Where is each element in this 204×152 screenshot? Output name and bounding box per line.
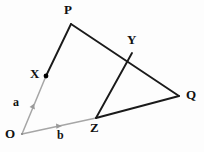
- label-point-x: X: [30, 67, 39, 80]
- point-marker-x-icon: [44, 74, 49, 79]
- label-vector-b: b: [57, 129, 64, 141]
- geometry-figure: P Y Q X Z O a b: [0, 0, 204, 152]
- label-point-o: O: [5, 127, 15, 140]
- label-point-p: P: [64, 3, 72, 16]
- vector-arrow-a-icon: [29, 103, 36, 110]
- label-point-z: Z: [90, 121, 99, 134]
- segment-p-to-q: [71, 24, 179, 96]
- label-point-q: Q: [186, 88, 196, 101]
- point-marker-o-icon: [21, 133, 23, 135]
- label-vector-a: a: [13, 96, 19, 108]
- segment-x-to-p: [46, 24, 71, 76]
- label-point-y: Y: [127, 33, 136, 46]
- segment-z-to-y: [96, 53, 132, 118]
- segment-z-to-q: [96, 96, 179, 118]
